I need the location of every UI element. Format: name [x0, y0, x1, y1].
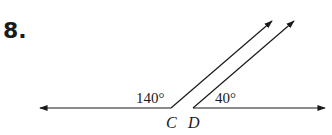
point-label-c: C: [166, 114, 177, 131]
point-label-d: D: [187, 114, 200, 131]
ray-d-diagonal: [193, 21, 294, 108]
angle-diagram: 140° 40° C D: [0, 0, 332, 135]
angle-label-140: 140°: [136, 90, 165, 106]
angle-label-40: 40°: [215, 90, 236, 106]
